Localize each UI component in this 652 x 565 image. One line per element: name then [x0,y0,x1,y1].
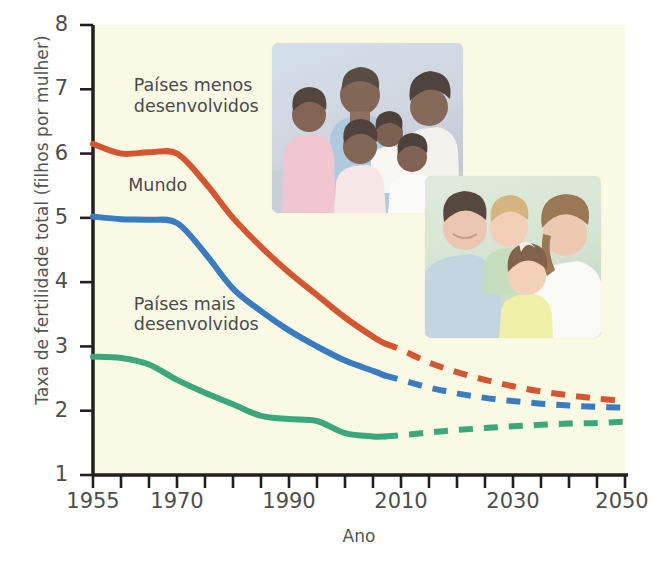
x-axis-minor-ticks [93,475,625,488]
photo-developed-country-family [425,176,601,338]
annotation-most-developed: Países mais desenvolvidos [134,294,259,335]
annotation-least-developed: Países menos desenvolvidos [134,75,259,116]
y-axis-ticks [80,25,93,475]
annotation-world: Mundo [128,175,187,195]
